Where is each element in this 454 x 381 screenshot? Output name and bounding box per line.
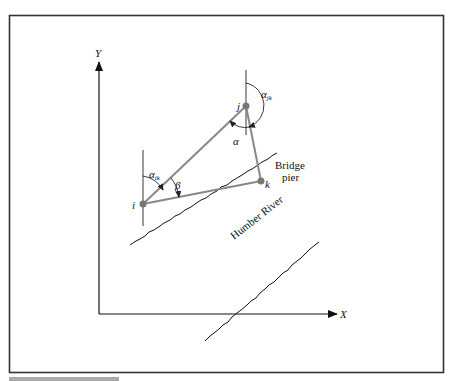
arc-alpha — [230, 121, 250, 127]
label-beta: β — [174, 179, 181, 191]
line-ij — [143, 106, 246, 204]
river-label: Humber River — [228, 193, 285, 242]
point-k — [258, 178, 265, 185]
y-axis-label: Y — [95, 47, 103, 59]
label-alpha-jk: αjk — [261, 88, 273, 102]
bridge-pier-label-1: Bridge — [275, 159, 305, 171]
traverse-lines — [143, 106, 261, 204]
label-alpha-ik: αik — [149, 168, 161, 182]
line-ik — [143, 181, 261, 204]
label-j: j — [235, 100, 240, 112]
figure-frame — [10, 16, 444, 373]
bridge-pier-label-2: pier — [282, 171, 299, 183]
label-k: k — [265, 178, 271, 190]
caption-partial — [9, 377, 119, 381]
point-j — [243, 103, 250, 110]
axes: Y X — [95, 47, 348, 320]
label-alpha: α — [233, 135, 239, 147]
river-bank-upper — [130, 153, 277, 245]
point-i — [140, 201, 147, 208]
river-bank-lower — [205, 242, 319, 341]
label-i: i — [132, 199, 135, 211]
survey-diagram: Y X i j k αik β αjk α Bridge pier Humber… — [0, 0, 454, 381]
x-axis-label: X — [339, 308, 348, 320]
line-jk — [246, 106, 261, 181]
